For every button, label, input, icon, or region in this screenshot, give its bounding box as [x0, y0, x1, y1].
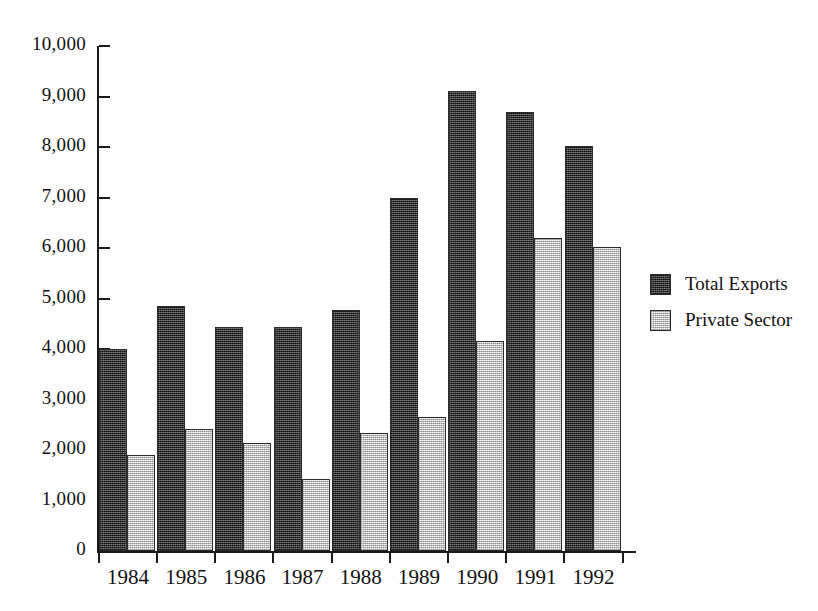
x-axis-line: [97, 551, 636, 553]
y-axis-tick-label: 3,000: [42, 387, 86, 409]
y-axis-tick-label: 7,000: [42, 185, 86, 207]
x-axis-label-1988: 1988: [330, 565, 392, 590]
x-axis-tick: [156, 552, 158, 563]
x-axis-tick: [447, 552, 449, 563]
bar-1991-total-exports: [506, 112, 534, 551]
chart-page: 01,0002,0003,0004,0005,0006,0007,0008,00…: [0, 0, 818, 611]
y-axis-tick: [99, 45, 110, 47]
x-axis-label-1984: 1984: [97, 565, 159, 590]
x-axis-label-1985: 1985: [155, 565, 217, 590]
legend-item-private-sector: Private Sector: [650, 302, 815, 338]
y-axis-tick: [99, 247, 110, 249]
bar-1990-total-exports: [448, 91, 476, 551]
y-axis-tick: [99, 197, 110, 199]
bar-1986-total-exports: [215, 327, 243, 551]
y-axis-tick-label: 8,000: [42, 134, 86, 156]
bar-1985-private-sector: [185, 429, 213, 551]
bar-1990-private-sector: [476, 341, 504, 551]
plot-area: [97, 46, 635, 551]
y-axis-tick-label: 2,000: [42, 437, 86, 459]
y-axis-tick-label: 1,000: [42, 488, 86, 510]
legend-item-total-exports: Total Exports: [650, 266, 815, 302]
legend-label-total-exports: Total Exports: [685, 273, 788, 295]
bar-1989-total-exports: [390, 198, 418, 552]
bar-1984-private-sector: [127, 455, 155, 551]
y-axis-tick-label: 10,000: [32, 33, 86, 55]
y-axis-tick-label: 4,000: [42, 336, 86, 358]
y-axis-tick: [99, 298, 110, 300]
y-axis-tick-label: 9,000: [42, 84, 86, 106]
chart-legend: Total Exports Private Sector: [650, 266, 815, 338]
bar-1992-total-exports: [565, 146, 593, 552]
bar-1987-private-sector: [302, 479, 330, 551]
bar-1992-private-sector: [593, 247, 621, 552]
x-axis-tick: [505, 552, 507, 563]
y-axis-tick: [99, 146, 110, 148]
x-axis-label-1986: 1986: [213, 565, 275, 590]
x-axis-label-1992: 1992: [563, 565, 625, 590]
x-axis-tick: [389, 552, 391, 563]
y-axis-labels: 01,0002,0003,0004,0005,0006,0007,0008,00…: [0, 46, 86, 552]
y-axis-tick: [99, 96, 110, 98]
x-axis-label-1991: 1991: [504, 565, 566, 590]
bar-1985-total-exports: [157, 306, 185, 551]
x-axis-tick: [622, 552, 624, 563]
bar-1984-total-exports: [99, 349, 127, 551]
y-axis-tick-label: 6,000: [42, 235, 86, 257]
x-axis-tick: [331, 552, 333, 563]
y-axis-tick-label: 0: [76, 538, 86, 560]
bar-1988-total-exports: [332, 310, 360, 551]
x-axis-label-1990: 1990: [446, 565, 508, 590]
bar-1991-private-sector: [534, 238, 562, 551]
y-axis-tick-label: 5,000: [42, 286, 86, 308]
x-axis-tick: [563, 552, 565, 563]
bar-1988-private-sector: [360, 433, 388, 551]
bar-1987-total-exports: [274, 327, 302, 551]
x-axis-tick: [98, 552, 100, 563]
bar-1989-private-sector: [418, 417, 446, 551]
x-axis-label-1987: 1987: [272, 565, 334, 590]
x-axis-labels: 198419851986198719881989199019911992: [97, 565, 642, 597]
legend-swatch-total-exports: [650, 274, 671, 295]
legend-label-private-sector: Private Sector: [685, 309, 792, 331]
bar-1986-private-sector: [243, 443, 271, 551]
x-axis-tick: [272, 552, 274, 563]
legend-swatch-private-sector: [650, 310, 671, 331]
x-axis-tick: [214, 552, 216, 563]
x-axis-label-1989: 1989: [388, 565, 450, 590]
